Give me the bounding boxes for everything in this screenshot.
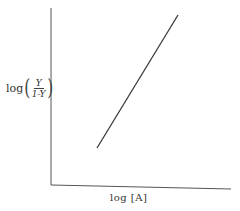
y-label-fraction: Y 1-Y [31, 78, 47, 99]
right-paren: ) [47, 77, 53, 99]
hill-plot [0, 0, 240, 211]
y-axis-label: log ( Y 1-Y ) [6, 77, 54, 99]
y-label-denominator: 1-Y [31, 89, 47, 99]
left-paren: ( [24, 77, 30, 99]
y-label-log: log [6, 82, 23, 95]
data-line [97, 15, 178, 148]
y-label-numerator: Y [34, 78, 44, 89]
x-axis-label: log [A] [110, 192, 147, 203]
x-axis [51, 185, 231, 189]
